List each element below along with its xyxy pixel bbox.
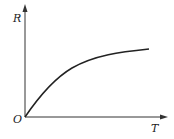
y-axis	[23, 4, 28, 117]
y-axis-arrow-icon	[23, 4, 28, 12]
x-axis-label: T	[151, 123, 158, 134]
origin-label: O	[13, 114, 22, 125]
graph	[0, 0, 174, 139]
x-axis-arrow-icon	[160, 115, 168, 120]
x-axis	[25, 115, 168, 120]
r-t-curve	[25, 49, 149, 117]
y-axis-label: R	[13, 13, 21, 24]
